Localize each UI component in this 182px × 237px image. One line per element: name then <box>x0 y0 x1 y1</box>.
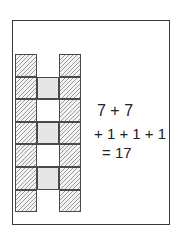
hatched-tile <box>15 54 37 77</box>
hatched-tile <box>15 77 37 100</box>
empty-gap <box>37 99 59 122</box>
hatched-tile <box>59 190 81 213</box>
hatched-tile <box>15 99 37 122</box>
hatched-tile <box>15 190 37 213</box>
hatched-tile <box>15 167 37 190</box>
hatched-tile <box>59 122 81 145</box>
stippled-tile <box>37 167 59 190</box>
stippled-tile <box>37 77 59 100</box>
empty-gap <box>37 144 59 167</box>
hatched-tile <box>15 122 37 145</box>
equation-line-2: + 1 + 1 + 1 <box>94 126 166 141</box>
hatched-tile <box>59 77 81 100</box>
hatched-tile <box>15 144 37 167</box>
hatched-tile <box>59 99 81 122</box>
equation-line-3: = 17 <box>102 145 132 160</box>
equation-line-1: 7 + 7 <box>97 103 133 119</box>
stippled-tile <box>37 122 59 145</box>
hatched-tile <box>59 167 81 190</box>
hatched-tile <box>59 144 81 167</box>
hatched-tile <box>59 54 81 77</box>
